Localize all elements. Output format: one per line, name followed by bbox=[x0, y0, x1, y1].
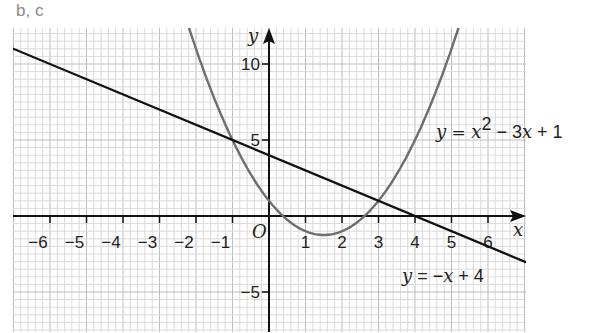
eq-minus-3: − 3 bbox=[491, 122, 522, 142]
origin-label: O bbox=[252, 221, 267, 242]
x-tick-label: 3 bbox=[374, 233, 383, 252]
x-tick-label: −3 bbox=[138, 233, 157, 252]
eq-x: x bbox=[443, 265, 453, 286]
x-tick-label: −1 bbox=[211, 233, 230, 252]
y-axis-label: y bbox=[247, 25, 259, 46]
x-tick-label: 6 bbox=[483, 233, 492, 252]
x-tick-label: −2 bbox=[174, 233, 193, 252]
eq-x: x bbox=[471, 121, 481, 142]
y-tick-label: 10 bbox=[241, 55, 260, 74]
eq-equals: = bbox=[446, 122, 471, 142]
y-tick-label: −5 bbox=[241, 283, 260, 302]
x-tick-label: 4 bbox=[410, 233, 419, 252]
x-axis-label: x bbox=[513, 219, 523, 240]
eq-equals-neg: = − bbox=[412, 266, 443, 286]
eq-x2: x bbox=[522, 121, 532, 142]
x-tick-label: −6 bbox=[28, 233, 47, 252]
eq-exponent: 2 bbox=[481, 114, 491, 134]
line-equation: y = −x + 4 bbox=[401, 265, 484, 286]
x-tick-label: 2 bbox=[337, 233, 346, 252]
axes bbox=[13, 28, 526, 332]
x-tick-label: −4 bbox=[101, 233, 120, 252]
parabola-equation: y = x2 − 3x + 1 bbox=[435, 114, 563, 142]
graph: −6−5−4−3−2−1123456105−5 y x O y = x2 − 3… bbox=[0, 0, 594, 333]
x-tick-label: −5 bbox=[65, 233, 84, 252]
eq-plus-1: + 1 bbox=[532, 122, 563, 142]
x-tick-label: 5 bbox=[447, 233, 456, 252]
x-tick-label: 1 bbox=[301, 233, 310, 252]
eq-plus-4: + 4 bbox=[453, 266, 484, 286]
